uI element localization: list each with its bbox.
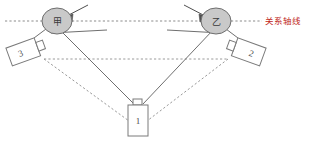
camera-3[interactable]: 3 <box>6 35 47 66</box>
camera-3-body <box>6 38 41 66</box>
camera-2[interactable]: 2 <box>225 35 266 66</box>
connector-jia-to-camera3 <box>34 29 46 38</box>
person-jia-label: 甲 <box>53 17 62 27</box>
person-yi-label: 乙 <box>212 17 221 27</box>
camera-layout-diagram: 甲 乙 3 2 1 关系轴线 <box>0 0 310 141</box>
person-yi[interactable]: 乙 <box>201 8 231 34</box>
camera-1-label: 1 <box>136 116 141 126</box>
connector-yi-to-camera2 <box>226 29 238 38</box>
triangle-edge-right <box>147 59 228 121</box>
person-jia[interactable]: 甲 <box>42 8 72 34</box>
camera-1-lens <box>133 99 142 105</box>
diagram-canvas: 甲 乙 3 2 1 关系轴线 <box>0 0 310 141</box>
sight-line-camera1-to-jia <box>60 30 134 104</box>
relationship-axis-label: 关系轴线 <box>265 16 301 26</box>
sight-line-camera1-to-yi <box>143 30 213 104</box>
camera-1[interactable]: 1 <box>128 99 148 136</box>
triangle-edge-left <box>44 59 129 121</box>
